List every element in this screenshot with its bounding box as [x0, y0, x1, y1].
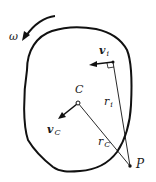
vi-arrowhead-icon	[89, 61, 97, 67]
vi-label: vi	[99, 45, 109, 56]
ri-label-main: r	[104, 95, 109, 108]
velocity-vector-vi	[96, 62, 113, 64]
position-line-ri	[113, 62, 130, 166]
center-label: C	[75, 84, 83, 95]
position-line-rC	[78, 103, 130, 166]
rc-label-main: r	[98, 135, 103, 148]
center-point-C	[76, 101, 80, 105]
vc-label-main: v	[47, 123, 53, 136]
vi-label-main: v	[99, 44, 105, 57]
point-P	[128, 164, 131, 167]
vc-label: vC	[47, 124, 61, 135]
omega-label: ω	[9, 31, 18, 42]
velocity-vector-vC	[62, 104, 77, 116]
ri-label-sub: i	[110, 100, 113, 109]
rc-label: rC	[98, 136, 110, 147]
rigid-body-outline	[24, 27, 131, 171]
point-i	[112, 61, 115, 64]
diagram-canvas: ω C vi vC ri rC P	[0, 0, 156, 182]
vi-label-sub: i	[106, 49, 109, 58]
point-P-label: P	[136, 158, 144, 170]
ri-label: ri	[104, 96, 113, 107]
rc-label-sub: C	[104, 140, 110, 149]
vc-label-sub: C	[54, 128, 60, 137]
angular-velocity-arrow	[26, 16, 55, 36]
